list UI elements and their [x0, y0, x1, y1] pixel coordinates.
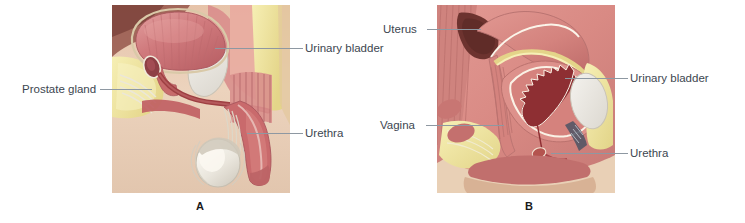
- label-uterus: Uterus: [383, 23, 417, 36]
- leader-line-prostate-gland: [100, 89, 152, 90]
- label-prostate-gland: Prostate gland: [22, 83, 96, 96]
- panel-caption-a: A: [196, 200, 204, 212]
- label-vagina: Vagina: [380, 119, 415, 132]
- panel-a-male-pelvis: [112, 5, 290, 193]
- panel-caption-b: B: [525, 200, 533, 212]
- leader-line-urethra-a: [247, 133, 303, 134]
- label-urinary-bladder-a: Urinary bladder: [305, 42, 384, 55]
- female-pelvis-illustration: [437, 5, 615, 193]
- leader-line-urinary-bladder-b: [565, 78, 628, 79]
- anatomy-figure: Prostate gland Urinary bladder Urethra U…: [0, 0, 745, 223]
- leader-line-urinary-bladder-a: [215, 48, 303, 49]
- panel-b-female-pelvis: [437, 5, 615, 193]
- label-urethra-a: Urethra: [305, 127, 343, 140]
- male-pelvis-illustration: [112, 5, 290, 193]
- leader-line-vagina: [426, 125, 504, 126]
- label-urethra-b: Urethra: [630, 147, 668, 160]
- leader-line-urethra-b: [551, 153, 628, 154]
- label-urinary-bladder-b: Urinary bladder: [630, 72, 709, 85]
- leader-line-uterus: [427, 29, 481, 30]
